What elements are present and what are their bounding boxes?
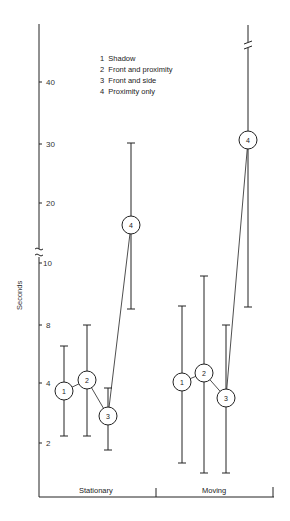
tick-label: 30 — [46, 140, 55, 149]
tick-label: 10 — [43, 259, 52, 268]
point-stationary-3: 3 — [99, 407, 117, 425]
legend-item-2: 2 Front and proximity — [100, 65, 173, 74]
data-points: 1 2 3 4 1 2 3 4 — [55, 131, 257, 425]
point-moving-2: 2 — [195, 364, 213, 382]
axis-break-icon — [35, 254, 43, 256]
legend-item-3: 3 Front and side — [100, 76, 156, 85]
point-stationary-1: 1 — [55, 382, 73, 400]
svg-text:2: 2 — [202, 370, 206, 377]
tick-label: 40 — [46, 78, 55, 87]
svg-text:3: 3 — [106, 413, 110, 420]
svg-text:4: 4 — [129, 222, 133, 229]
chart: 40 30 20 10 8 4 2 Seconds 1 Shadow 2 Fro… — [0, 0, 290, 521]
point-moving-4: 4 — [239, 131, 257, 149]
tick-label: 2 — [46, 439, 51, 448]
svg-text:2: 2 — [85, 377, 89, 384]
point-moving-3: 3 — [217, 389, 235, 407]
category-label-stationary: Stationary — [79, 486, 113, 495]
tick-label: 4 — [46, 379, 51, 388]
svg-text:1: 1 — [180, 379, 184, 386]
point-moving-1: 1 — [173, 373, 191, 391]
point-stationary-2: 2 — [78, 371, 96, 389]
legend-item-4: 4 Proximity only — [100, 87, 155, 96]
category-label-moving: Moving — [202, 486, 226, 495]
svg-text:1: 1 — [62, 388, 66, 395]
y-axis-label: Seconds — [15, 281, 24, 310]
tick-label: 20 — [46, 199, 55, 208]
svg-text:3: 3 — [224, 395, 228, 402]
svg-text:4: 4 — [246, 137, 250, 144]
legend-item-1: 1 Shadow — [100, 54, 136, 63]
point-stationary-4: 4 — [122, 216, 140, 234]
tick-label: 8 — [46, 321, 51, 330]
